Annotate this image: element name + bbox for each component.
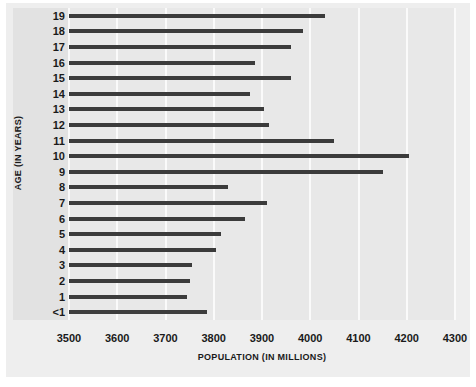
bar-row: [69, 273, 455, 289]
bar: [69, 123, 269, 127]
y-tick-label: 16: [15, 55, 65, 71]
bar: [69, 76, 291, 80]
bar-row: [69, 257, 455, 273]
bar-row: [69, 133, 455, 149]
bar: [69, 248, 216, 252]
bar: [69, 185, 228, 189]
bar-row: [69, 304, 455, 320]
bar: [69, 29, 303, 33]
x-axis-tick-labels: 350036003700380039004000410042004300: [69, 332, 455, 348]
y-tick-label: 4: [15, 242, 65, 258]
bar-row: [69, 101, 455, 117]
bar-row: [69, 226, 455, 242]
bar-row: [69, 55, 455, 71]
bar: [69, 170, 383, 174]
bar-row: [69, 148, 455, 164]
bar: [69, 279, 190, 283]
bar: [69, 201, 267, 205]
chart-figure: 19181716151413121110987654321<1 35003600…: [0, 0, 476, 387]
bar-row: [69, 179, 455, 195]
y-tick-label: 18: [15, 23, 65, 39]
bar-row: [69, 23, 455, 39]
bar: [69, 263, 192, 267]
bar-row: [69, 195, 455, 211]
bar: [69, 14, 325, 18]
bar: [69, 61, 255, 65]
bar-row: [69, 8, 455, 24]
bar: [69, 310, 207, 314]
bar: [69, 295, 187, 299]
x-tick-label: 4300: [425, 332, 476, 344]
bar: [69, 232, 221, 236]
bar: [69, 154, 409, 158]
y-axis-title: AGE (IN YEARS): [13, 73, 23, 233]
plot-area: [69, 8, 455, 320]
bar-row: [69, 211, 455, 227]
bar: [69, 217, 245, 221]
bar-row: [69, 86, 455, 102]
x-axis-title: POPULATION (IN MILLIONS): [69, 352, 455, 362]
y-tick-label: 2: [15, 273, 65, 289]
y-tick-label: 19: [15, 8, 65, 24]
bar-row: [69, 117, 455, 133]
y-tick-label: 3: [15, 257, 65, 273]
bar: [69, 107, 264, 111]
y-tick-label: 1: [15, 289, 65, 305]
bar-row: [69, 39, 455, 55]
y-tick-label: <1: [15, 304, 65, 320]
y-tick-label: 17: [15, 39, 65, 55]
bar-row: [69, 70, 455, 86]
bar-row: [69, 242, 455, 258]
bar-row: [69, 289, 455, 305]
bar: [69, 92, 250, 96]
bar-row: [69, 164, 455, 180]
bar: [69, 45, 291, 49]
bar: [69, 139, 334, 143]
